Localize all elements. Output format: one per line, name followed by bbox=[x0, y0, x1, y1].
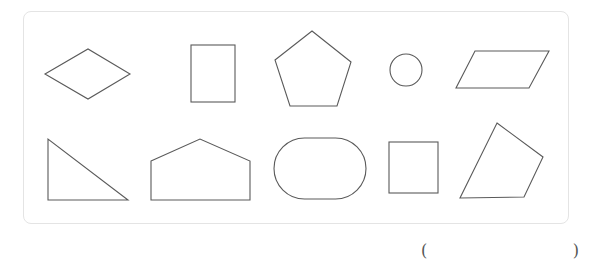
parallelogram-shape bbox=[456, 51, 549, 88]
stadium-shape bbox=[274, 138, 366, 199]
shapes-figure bbox=[0, 0, 589, 261]
answer-bracket: ( ) bbox=[421, 243, 579, 261]
answer-blank[interactable] bbox=[433, 243, 567, 261]
open-paren: ( bbox=[421, 241, 427, 260]
square-shape bbox=[389, 142, 438, 193]
circle-shape bbox=[390, 54, 422, 86]
right-triangle-shape bbox=[48, 139, 128, 200]
rectangle-shape bbox=[191, 45, 235, 102]
rhombus-shape bbox=[45, 49, 130, 99]
pentagon-shape bbox=[275, 31, 351, 106]
close-paren: ) bbox=[573, 241, 579, 260]
house-pentagon-shape bbox=[151, 139, 250, 200]
irregular-quadrilateral-shape bbox=[460, 123, 543, 198]
